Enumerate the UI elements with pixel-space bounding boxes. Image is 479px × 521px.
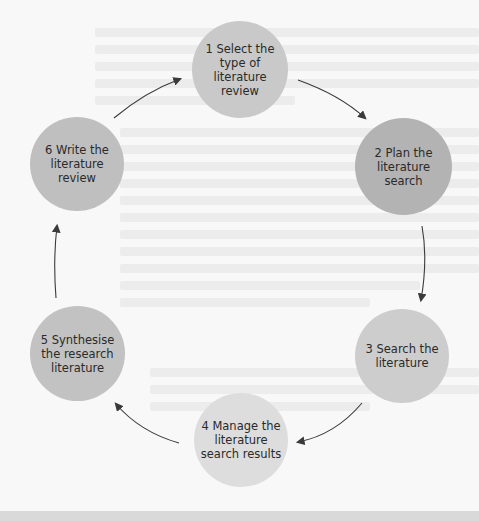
step-label: 4 Manage the literature search results bbox=[195, 419, 287, 461]
arrow-3-to-4 bbox=[298, 403, 362, 442]
step-2-plan-search: 2 Plan the literature search bbox=[355, 118, 452, 215]
bottom-bar bbox=[0, 511, 479, 521]
step-5-synthesise: 5 Synthesise the research literature bbox=[30, 306, 125, 401]
arrow-5-to-6 bbox=[55, 226, 57, 298]
step-label: 1 Select the type of literature review bbox=[199, 42, 281, 98]
step-label: 5 Synthesise the research literature bbox=[37, 333, 119, 375]
step-3-search-literature: 3 Search the literature bbox=[355, 309, 449, 403]
step-1-select-review-type: 1 Select the type of literature review bbox=[192, 21, 288, 118]
arrow-1-to-2 bbox=[298, 80, 365, 118]
step-label: 2 Plan the literature search bbox=[363, 146, 445, 188]
arrow-2-to-3 bbox=[421, 226, 425, 300]
step-label: 6 Write the literature review bbox=[36, 143, 118, 185]
literature-review-cycle-diagram: 1 Select the type of literature review 2… bbox=[0, 0, 479, 521]
arrow-6-to-1 bbox=[114, 79, 180, 118]
step-4-manage-results: 4 Manage the literature search results bbox=[194, 393, 288, 487]
step-label: 3 Search the literature bbox=[361, 342, 443, 370]
arrow-4-to-5 bbox=[116, 404, 179, 443]
step-6-write-review: 6 Write the literature review bbox=[30, 117, 124, 211]
